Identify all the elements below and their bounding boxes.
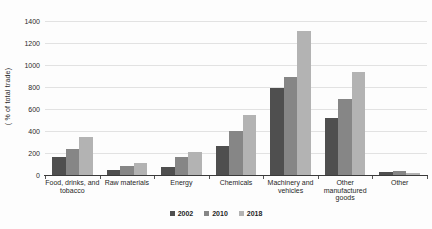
bar-2010 <box>120 166 134 175</box>
x-category-label: Chemicals <box>205 179 267 187</box>
gridline <box>45 65 427 66</box>
bar-2010 <box>338 99 352 175</box>
legend-marker-icon <box>239 211 244 216</box>
x-category-label: Other manufactured goods <box>314 179 376 202</box>
bar-2002 <box>161 167 175 175</box>
bar-2002 <box>216 146 230 175</box>
y-tick-label: 0 <box>20 172 40 179</box>
y-tick-label: 600 <box>20 106 40 113</box>
bar-2002 <box>325 118 339 175</box>
y-tick-label: 800 <box>20 84 40 91</box>
bar-2018 <box>352 72 366 175</box>
gridline <box>45 43 427 44</box>
bar-2002 <box>52 157 66 175</box>
x-category-label: Machinery and vehicles <box>260 179 322 194</box>
x-axis-tick <box>45 176 46 179</box>
legend-item-2010: 2010 <box>204 210 228 217</box>
bar-2002 <box>270 88 284 175</box>
x-axis-line <box>44 175 428 176</box>
y-axis-title: ( % of total trade) <box>4 57 11 137</box>
gridline <box>45 21 427 22</box>
bar-2010 <box>66 149 80 175</box>
legend-marker-icon <box>204 211 209 216</box>
x-category-label: Energy <box>150 179 212 187</box>
chart-legend: 200220102018 <box>0 210 432 217</box>
bar-2018 <box>297 31 311 175</box>
legend-label: 2002 <box>178 210 194 217</box>
x-axis-tick <box>100 176 101 179</box>
x-axis-tick <box>372 176 373 179</box>
legend-label: 2010 <box>212 210 228 217</box>
x-axis-tick <box>209 176 210 179</box>
legend-item-2018: 2018 <box>239 210 263 217</box>
y-tick-label: 1000 <box>20 62 40 69</box>
x-axis-tick <box>154 176 155 179</box>
legend-label: 2018 <box>247 210 263 217</box>
legend-marker-icon <box>170 211 175 216</box>
bar-2010 <box>175 157 189 175</box>
x-category-label: Food, drinks, and tobacco <box>41 179 103 194</box>
x-axis-tick <box>263 176 264 179</box>
bar-2018 <box>243 115 257 176</box>
bar-2010 <box>229 131 243 175</box>
x-axis-tick <box>427 176 428 179</box>
bar-chart: ( % of total trade) 200220102018 0200400… <box>0 0 432 229</box>
gridline <box>45 109 427 110</box>
y-tick-label: 1400 <box>20 18 40 25</box>
y-tick-label: 400 <box>20 128 40 135</box>
x-axis-tick <box>318 176 319 179</box>
bar-2010 <box>284 77 298 175</box>
y-tick-label: 200 <box>20 150 40 157</box>
bar-2018 <box>79 137 93 176</box>
bar-2018 <box>134 163 148 175</box>
bar-2018 <box>188 152 202 175</box>
x-category-label: Other <box>369 179 431 187</box>
gridline <box>45 87 427 88</box>
y-tick-label: 1200 <box>20 40 40 47</box>
x-category-label: Raw materials <box>96 179 158 187</box>
legend-item-2002: 2002 <box>170 210 194 217</box>
